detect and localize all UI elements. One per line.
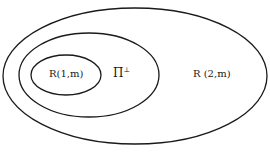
middle-set-label: Π⊥ (113, 66, 130, 80)
middle-set-ellipse (19, 33, 159, 117)
inner-set-label-text: R(1,m) (49, 68, 83, 79)
middle-set-superscript: ⊥ (123, 66, 130, 74)
middle-set-label-text: Π (113, 66, 123, 80)
outer-set-label-text: R (2,m) (193, 68, 231, 79)
outer-set-label: R (2,m) (193, 68, 231, 79)
inner-set-label: R(1,m) (49, 68, 83, 79)
